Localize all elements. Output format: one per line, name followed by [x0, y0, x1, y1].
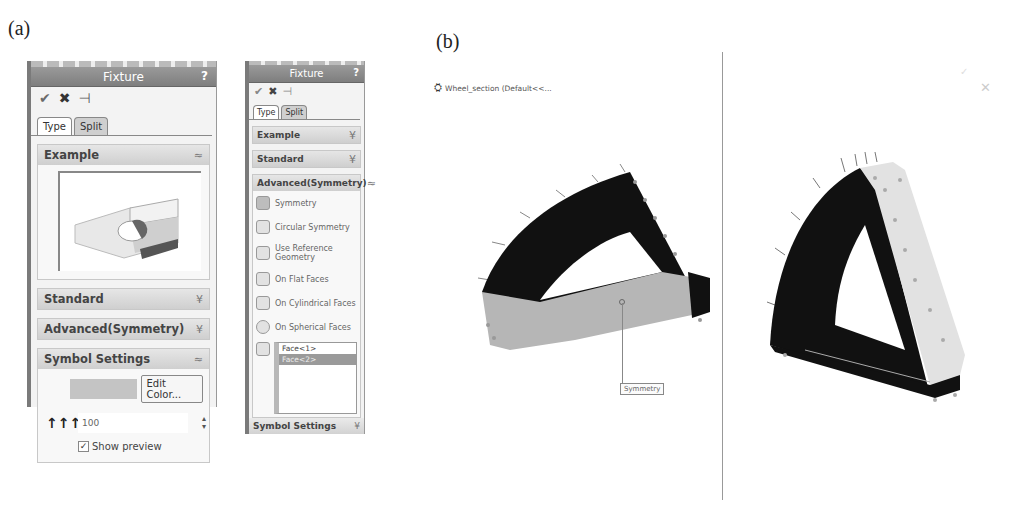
- group-advanced-header[interactable]: Advanced(Symmetry) ¥: [38, 319, 209, 339]
- wheel-section-model-right[interactable]: [765, 150, 985, 420]
- group-advanced-header[interactable]: Advanced(Symmetry) ≈: [253, 175, 360, 191]
- face-selection-row: Face<1> Face<2>: [253, 339, 360, 417]
- group-advanced: Advanced(Symmetry) ≈ Symmetry Circular S…: [252, 174, 361, 418]
- option-label: On Spherical Faces: [275, 323, 351, 332]
- option-circular-symmetry[interactable]: Circular Symmetry: [253, 215, 360, 239]
- group-title: Example: [44, 148, 99, 162]
- circular-symmetry-icon: [256, 220, 270, 234]
- part-name: Wheel_section (Default<<...: [445, 84, 552, 93]
- group-title: Symbol Settings: [44, 352, 150, 366]
- face-selection-list[interactable]: Face<1> Face<2>: [274, 342, 357, 414]
- group-standard: Standard ¥: [252, 150, 361, 168]
- option-label: Circular Symmetry: [275, 223, 350, 232]
- pm-title: Fixture: [103, 70, 144, 84]
- symbol-size-icon: ↑↑↑: [46, 415, 70, 431]
- spherical-faces-icon: [256, 320, 270, 334]
- color-row: Edit Color...: [38, 369, 209, 403]
- pm-actions: ✔ ✖ ⊣: [249, 83, 364, 101]
- cylindrical-faces-icon: [256, 296, 270, 310]
- face-selection-icon: [256, 342, 270, 356]
- chevron-down-icon[interactable]: ¥: [349, 129, 356, 142]
- option-label: Use Reference Geometry: [275, 244, 357, 262]
- option-label: Symmetry: [275, 199, 316, 208]
- color-swatch: [70, 379, 137, 399]
- callout-leader: [622, 303, 623, 383]
- tab-type[interactable]: Type: [37, 117, 72, 135]
- pm-actions: ✔ ✖ ⊣: [31, 87, 216, 109]
- group-symbol-header[interactable]: Symbol Settings ≈: [38, 349, 209, 369]
- fixture-example-illustration: [60, 173, 210, 271]
- show-preview-label: Show preview: [92, 441, 162, 452]
- group-title: Example: [257, 130, 300, 140]
- group-title: Advanced(Symmetry): [257, 178, 367, 188]
- close-icon[interactable]: ✕: [980, 80, 991, 95]
- group-example-header[interactable]: Example ≈: [38, 145, 209, 165]
- figure-label-b: (b): [436, 30, 459, 53]
- check-icon[interactable]: ✔: [39, 91, 51, 105]
- face-item-selected[interactable]: Face<2>: [279, 354, 356, 365]
- tab-type[interactable]: Type: [253, 105, 279, 119]
- option-spherical-faces[interactable]: On Spherical Faces: [253, 315, 360, 339]
- pushpin-icon[interactable]: ⊣: [78, 91, 90, 105]
- edit-color-button[interactable]: Edit Color...: [141, 375, 203, 403]
- show-preview-row[interactable]: ✓ Show preview: [38, 433, 209, 462]
- feature-tree-root[interactable]: ⛭ Wheel_section (Default<<...: [434, 82, 552, 94]
- group-example: Example ≈: [37, 144, 210, 280]
- x-icon[interactable]: ✖: [268, 85, 277, 99]
- option-cylindrical-faces[interactable]: On Cylindrical Faces: [253, 291, 360, 315]
- symmetry-callout[interactable]: Symmetry: [620, 383, 664, 395]
- group-title: Symbol Settings: [253, 421, 336, 431]
- spin-stepper[interactable]: ▴▾: [202, 415, 206, 431]
- pushpin-icon[interactable]: ⊣: [282, 85, 292, 99]
- group-example-header[interactable]: Example ¥: [253, 127, 360, 143]
- example-image: [58, 171, 201, 271]
- part-icon: ⛭: [434, 82, 442, 94]
- reference-geometry-icon: [256, 246, 270, 260]
- fixture-property-manager-advanced: Fixture ? ✔ ✖ ⊣ Type Split Example ¥ Sta…: [245, 61, 365, 434]
- symbol-size-input[interactable]: [78, 413, 188, 433]
- group-advanced: Advanced(Symmetry) ¥: [37, 318, 210, 340]
- tab-split[interactable]: Split: [74, 117, 108, 135]
- group-standard-header[interactable]: Standard ¥: [38, 289, 209, 309]
- fixture-property-manager-standard: Fixture ? ✔ ✖ ⊣ Type Split Example ≈ St: [27, 61, 217, 407]
- symbol-size-row: ↑↑↑ ▴▾: [38, 403, 209, 433]
- help-icon[interactable]: ?: [353, 67, 359, 78]
- show-preview-checkbox[interactable]: ✓: [78, 441, 89, 452]
- group-title: Standard: [44, 292, 104, 306]
- option-flat-faces[interactable]: On Flat Faces: [253, 267, 360, 291]
- pm-tabs: Type Split: [31, 109, 212, 136]
- option-symmetry[interactable]: Symmetry: [253, 191, 360, 215]
- option-label: On Flat Faces: [275, 275, 329, 284]
- group-symbol-settings: Symbol Settings ≈ Edit Color... ↑↑↑ ▴▾ ✓…: [37, 348, 210, 463]
- group-standard: Standard ¥: [37, 288, 210, 310]
- flat-faces-icon: [256, 272, 270, 286]
- face-item[interactable]: Face<1>: [279, 343, 356, 354]
- viewport-divider: [722, 52, 723, 500]
- symmetry-icon: [256, 196, 270, 210]
- help-icon[interactable]: ?: [201, 69, 208, 83]
- chevron-down-icon[interactable]: ¥: [354, 421, 360, 431]
- chevron-down-icon[interactable]: ¥: [196, 293, 203, 306]
- check-icon[interactable]: ✔: [254, 85, 263, 99]
- x-icon[interactable]: ✖: [59, 91, 71, 105]
- pm-titlebar: Fixture ?: [31, 67, 216, 87]
- group-standard-header[interactable]: Standard ¥: [253, 151, 360, 167]
- group-title: Standard: [257, 154, 304, 164]
- option-reference-geometry[interactable]: Use Reference Geometry: [253, 239, 360, 267]
- pm-tabs: Type Split: [249, 101, 360, 120]
- figure-label-a: (a): [8, 17, 30, 40]
- wheel-section-model-left[interactable]: [470, 160, 720, 360]
- chevron-up-icon[interactable]: ≈: [367, 177, 376, 190]
- pm-title: Fixture: [289, 68, 323, 79]
- group-symbol-settings-header[interactable]: Symbol Settings ¥: [249, 418, 364, 434]
- option-label: On Cylindrical Faces: [275, 299, 356, 308]
- chevron-down-icon[interactable]: ¥: [196, 323, 203, 336]
- confirm-corner-icon[interactable]: ✓: [960, 66, 968, 77]
- chevron-up-icon[interactable]: ≈: [194, 149, 203, 162]
- group-title: Advanced(Symmetry): [44, 322, 184, 336]
- chevron-up-icon[interactable]: ≈: [194, 353, 203, 366]
- tab-split[interactable]: Split: [281, 105, 307, 119]
- pm-titlebar: Fixture ?: [249, 65, 364, 83]
- chevron-down-icon[interactable]: ¥: [349, 153, 356, 166]
- group-example: Example ¥: [252, 126, 361, 144]
